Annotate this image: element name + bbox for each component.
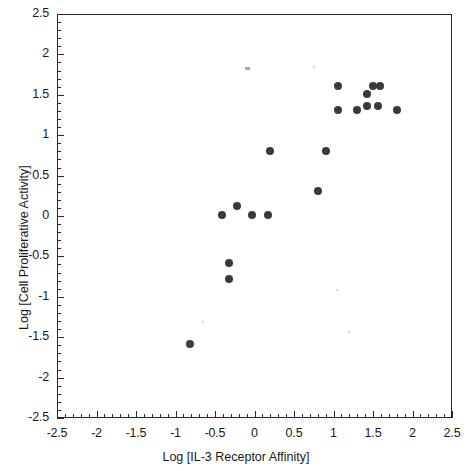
x-axis-minor-tick [168, 414, 169, 418]
data-point [374, 102, 382, 110]
y-axis-minor-tick [57, 38, 61, 39]
y-axis-minor-tick [57, 394, 61, 395]
x-axis-major-tick [57, 411, 58, 418]
y-tick-label: 2 [7, 46, 49, 60]
y-axis-minor-tick [57, 240, 61, 241]
y-axis-minor-tick [57, 87, 61, 88]
x-axis-major-tick [334, 411, 335, 418]
y-axis-minor-tick [57, 22, 61, 23]
x-axis-minor-tick [231, 414, 232, 418]
y-axis-minor-tick [57, 329, 61, 330]
scatter-plot-figure: -2.5-2-1.5-1-0.500.511.522.5-2.5-2-1.5-1… [0, 0, 472, 471]
scan-speck [313, 66, 315, 68]
x-axis-minor-tick [428, 414, 429, 418]
y-axis-minor-tick [57, 168, 61, 169]
x-axis-minor-tick [183, 414, 184, 418]
y-axis-major-tick [57, 418, 64, 419]
x-axis-major-tick [294, 411, 295, 418]
x-axis-minor-tick [270, 414, 271, 418]
y-axis-minor-tick [57, 143, 61, 144]
y-axis-minor-tick [57, 281, 61, 282]
y-axis-major-tick [57, 378, 64, 379]
y-axis-minor-tick [57, 353, 61, 354]
y-tick-label: 2.5 [7, 6, 49, 20]
y-axis-minor-tick [57, 71, 61, 72]
x-axis-major-tick [373, 411, 374, 418]
y-axis-major-tick [57, 54, 64, 55]
x-axis-minor-tick [191, 414, 192, 418]
x-axis-major-tick [136, 411, 137, 418]
y-tick-label: -1.5 [7, 329, 49, 343]
y-axis-minor-tick [57, 224, 61, 225]
y-axis-minor-tick [57, 30, 61, 31]
x-axis-minor-tick [318, 414, 319, 418]
x-axis-minor-tick [239, 414, 240, 418]
x-axis-minor-tick [199, 414, 200, 418]
data-point [266, 147, 274, 155]
y-axis-minor-tick [57, 151, 61, 152]
x-axis-minor-tick [389, 414, 390, 418]
x-axis-major-tick [255, 411, 256, 418]
x-axis-minor-tick [207, 414, 208, 418]
y-axis-label: Log [Cell Proliferative Activity] [17, 165, 31, 330]
x-axis-minor-tick [247, 414, 248, 418]
y-axis-minor-tick [57, 46, 61, 47]
x-axis-minor-tick [223, 414, 224, 418]
y-axis-minor-tick [57, 208, 61, 209]
x-axis-minor-tick [160, 414, 161, 418]
data-point [376, 82, 384, 90]
y-axis-minor-tick [57, 370, 61, 371]
y-axis-major-tick [57, 256, 64, 257]
x-axis-minor-tick [144, 414, 145, 418]
y-axis-minor-tick [57, 200, 61, 201]
x-axis-major-tick [176, 411, 177, 418]
y-axis-minor-tick [57, 361, 61, 362]
y-axis-major-tick [57, 337, 64, 338]
x-axis-minor-tick [397, 414, 398, 418]
x-axis-minor-tick [262, 414, 263, 418]
y-axis-minor-tick [57, 232, 61, 233]
x-axis-minor-tick [326, 414, 327, 418]
x-axis-major-tick [97, 411, 98, 418]
y-axis-minor-tick [57, 62, 61, 63]
x-axis-minor-tick [73, 414, 74, 418]
y-tick-label: -2 [7, 370, 49, 384]
y-axis-minor-tick [57, 273, 61, 274]
y-axis-minor-tick [57, 402, 61, 403]
y-axis-minor-tick [57, 184, 61, 185]
y-axis-major-tick [57, 95, 64, 96]
x-axis-minor-tick [120, 414, 121, 418]
y-axis-minor-tick [57, 111, 61, 112]
y-axis-minor-tick [57, 289, 61, 290]
x-axis-minor-tick [128, 414, 129, 418]
y-axis-minor-tick [57, 119, 61, 120]
y-axis-minor-tick [57, 127, 61, 128]
data-point [186, 340, 194, 348]
data-point [393, 106, 401, 114]
y-axis-minor-tick [57, 79, 61, 80]
x-axis-minor-tick [286, 414, 287, 418]
x-axis-minor-tick [420, 414, 421, 418]
y-axis-major-tick [57, 14, 64, 15]
scan-smudge [245, 67, 250, 70]
x-axis-minor-tick [278, 414, 279, 418]
y-axis-major-tick [57, 297, 64, 298]
x-axis-minor-tick [112, 414, 113, 418]
x-axis-minor-tick [89, 414, 90, 418]
y-axis-major-tick [57, 216, 64, 217]
x-axis-minor-tick [302, 414, 303, 418]
data-point [322, 147, 330, 155]
y-axis-minor-tick [57, 313, 61, 314]
x-axis-minor-tick [365, 414, 366, 418]
x-axis-minor-tick [381, 414, 382, 418]
y-axis-minor-tick [57, 321, 61, 322]
x-axis-minor-tick [349, 414, 350, 418]
x-axis-major-tick [215, 411, 216, 418]
y-tick-label: 1 [7, 127, 49, 141]
x-axis-minor-tick [341, 414, 342, 418]
y-axis-minor-tick [57, 103, 61, 104]
x-axis-minor-tick [444, 414, 445, 418]
y-axis-minor-tick [57, 386, 61, 387]
y-axis-minor-tick [57, 192, 61, 193]
x-tick-label: 2.5 [429, 426, 472, 440]
